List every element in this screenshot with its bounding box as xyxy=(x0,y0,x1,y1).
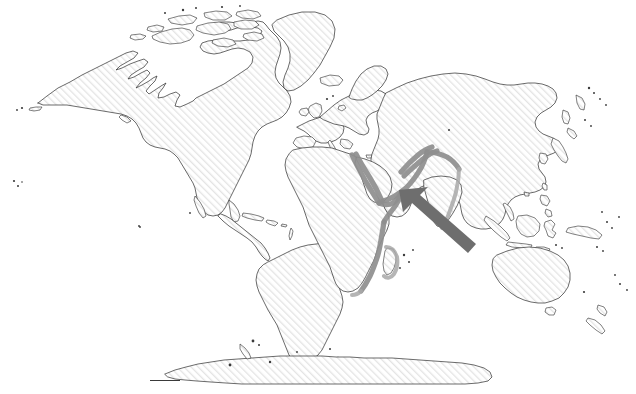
world-map-canvas xyxy=(0,0,636,394)
world-map-figure: World map with highlighted Indian Ocean … xyxy=(0,0,636,394)
